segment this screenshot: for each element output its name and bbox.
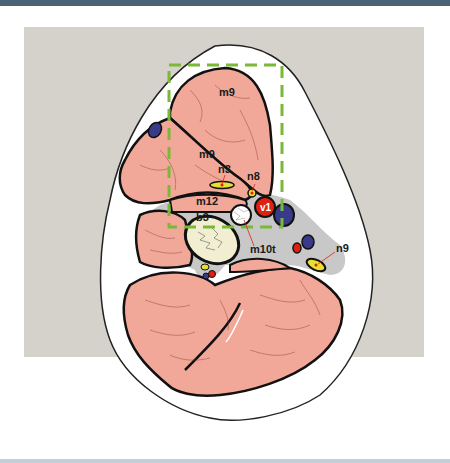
label-m9-top: m9	[219, 86, 235, 98]
vein-right	[274, 204, 294, 226]
artery-small-left	[209, 271, 216, 278]
label-v1: v1	[260, 202, 272, 213]
label-b3: b3	[196, 211, 209, 223]
vein-small-left	[203, 273, 209, 279]
label-n9: n9	[336, 242, 349, 254]
label-n8: n8	[247, 170, 260, 182]
label-m10t: m10t	[250, 243, 276, 255]
artery-right-lower	[293, 243, 301, 253]
label-m12: m12	[196, 195, 218, 207]
cross-section-diagram: m9 m9 n3 n8 m12 v1 b3 m10t n9	[0, 0, 450, 463]
label-m9-mid: m9	[199, 148, 215, 160]
vein-right-lower	[302, 235, 314, 249]
label-n3: n3	[218, 163, 231, 175]
tendon-m10t	[231, 205, 251, 225]
bottom-bar	[0, 459, 450, 463]
muscle-left	[136, 211, 192, 268]
nerve-small-left	[201, 264, 209, 270]
